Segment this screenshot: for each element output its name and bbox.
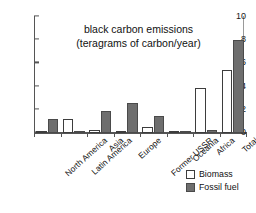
bar-total-biomass	[222, 70, 232, 133]
x-axis-tick-mark	[87, 132, 88, 137]
legend-label-fossil-fuel: Fossil fuel	[199, 183, 239, 192]
x-axis-tick-mark	[220, 132, 221, 137]
bar-asia-fossil-fuel	[101, 111, 111, 133]
bar-north-america-biomass	[36, 131, 46, 133]
bar-europe-biomass	[116, 131, 126, 133]
bar-total-fossil-fuel	[233, 40, 243, 133]
x-axis-tick-mark	[167, 132, 168, 137]
x-axis-label-total: Total	[240, 136, 256, 155]
bars-container	[34, 16, 246, 133]
bar-former-ussr-biomass	[142, 127, 152, 133]
x-axis-tick-mark	[34, 132, 35, 137]
bar-europe-fossil-fuel	[127, 103, 137, 133]
legend-item-fossil-fuel: Fossil fuel	[186, 181, 252, 194]
bar-africa-biomass	[195, 88, 205, 133]
x-axis-tick-mark	[246, 132, 247, 137]
x-axis-tick-mark	[114, 132, 115, 137]
bar-africa-fossil-fuel	[207, 130, 217, 133]
legend-item-biomass: Biomass	[186, 168, 252, 181]
bar-former-ussr-fossil-fuel	[154, 116, 164, 133]
bar-north-america-fossil-fuel	[48, 119, 58, 133]
chart-legend: Biomass Fossil fuel	[186, 168, 252, 194]
bar-chart: 0246810 black carbon emissions (teragram…	[0, 0, 256, 213]
x-axis-label-africa: Africa	[215, 136, 237, 157]
x-axis-tick-mark	[140, 132, 141, 137]
fossil-fuel-swatch-icon	[186, 183, 195, 192]
bar-latin-america-biomass	[63, 119, 73, 133]
x-axis-tick-mark	[61, 132, 62, 137]
bar-asia-biomass	[89, 130, 99, 133]
bar-latin-america-fossil-fuel	[74, 131, 84, 133]
x-axis-label-europe: Europe	[137, 136, 163, 161]
biomass-swatch-icon	[186, 170, 195, 179]
bar-oceania-biomass	[169, 131, 179, 133]
bar-oceania-fossil-fuel	[180, 131, 190, 133]
legend-label-biomass: Biomass	[199, 170, 233, 179]
x-axis-tick-mark	[193, 132, 194, 137]
